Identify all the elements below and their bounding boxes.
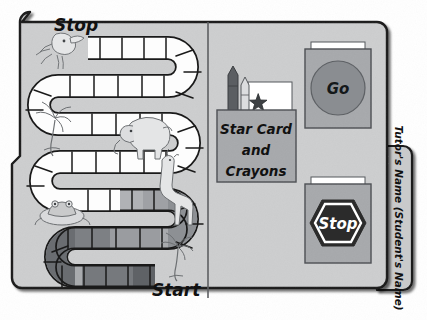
go-card-pocket[interactable]: Go <box>305 42 371 128</box>
pocket-label-line3: Crayons <box>226 163 287 179</box>
folder-game-board-canvas: Tutor's Name (Student's Name) <box>0 0 427 320</box>
board-stop-label: Stop <box>54 15 98 35</box>
stop-card-pocket[interactable]: Stop <box>305 177 371 263</box>
crayon-dark-icon <box>228 66 238 115</box>
board-start-label: Start <box>152 280 201 300</box>
tab-label: Tutor's Name (Student's Name) <box>393 125 405 310</box>
star-card-and-crayons-pocket[interactable]: Star Card and Crayons <box>217 66 296 182</box>
pocket-label-line2: and <box>242 142 271 158</box>
stop-card-label: Stop <box>318 215 357 233</box>
pocket-label-line1: Star Card <box>220 121 292 137</box>
go-label: Go <box>327 80 350 98</box>
